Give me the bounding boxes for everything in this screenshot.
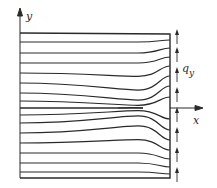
flow-line xyxy=(20,140,170,150)
flow-line xyxy=(20,40,170,42)
flow-line xyxy=(20,86,170,100)
crack-tip-upper xyxy=(118,108,143,109)
stress-flow-lines xyxy=(20,40,170,174)
load-label-subscript: y xyxy=(188,68,195,78)
load-arrowhead-icon xyxy=(175,167,179,173)
y-axis-arrowhead-icon xyxy=(18,8,23,16)
x-axis-label: x xyxy=(193,114,200,127)
flow-line xyxy=(20,172,170,174)
load-arrowhead-icon xyxy=(175,147,179,153)
load-arrowhead-icon xyxy=(175,127,179,133)
flow-line xyxy=(20,153,170,159)
flow-line xyxy=(20,48,170,53)
flow-line xyxy=(20,116,170,130)
y-axis-label: y xyxy=(25,10,33,23)
load-label-q: q xyxy=(182,62,189,75)
load-arrowhead-icon xyxy=(175,29,179,35)
load-arrowhead-icon xyxy=(175,67,179,73)
flow-line xyxy=(20,66,170,76)
plate-edge xyxy=(20,33,170,178)
plate-outline xyxy=(20,33,170,178)
flow-line xyxy=(20,76,170,90)
flow-line xyxy=(20,163,170,167)
flow-line xyxy=(20,126,170,140)
x-axis-arrowhead-icon xyxy=(195,106,203,111)
load-arrows-qy xyxy=(175,29,179,182)
crack-stress-flow-diagram: y x q y xyxy=(0,0,217,188)
load-arrowhead-icon xyxy=(175,47,179,53)
flow-line xyxy=(20,57,170,63)
load-arrowhead-icon xyxy=(175,87,179,93)
